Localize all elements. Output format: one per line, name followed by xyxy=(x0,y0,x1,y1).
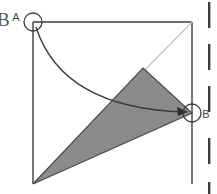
right-edge-mark xyxy=(208,138,210,164)
geometry-figure-panel: A B B xyxy=(0,0,217,194)
right-edge-mark xyxy=(208,2,210,28)
clipped-left-glyph: B xyxy=(0,9,10,30)
label-point-a: A xyxy=(12,11,20,23)
shaded-triangle xyxy=(33,68,192,184)
right-edge-mark xyxy=(208,86,210,112)
right-edge-marks xyxy=(208,2,210,194)
right-edge-mark xyxy=(208,44,210,70)
geometry-diagram: A B B xyxy=(0,0,217,194)
right-edge-mark xyxy=(208,182,210,194)
